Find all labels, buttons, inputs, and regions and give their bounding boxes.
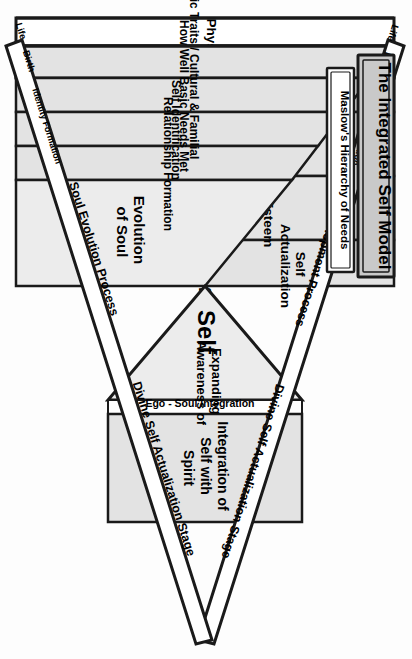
sub-title-text: Maslow's Hierarchy of Needs [339,91,351,250]
diagram-canvas: Creation of Life Physiological Safety Lo… [0,0,412,659]
label-expanding-awareness: Expanding Awareness of [194,341,224,426]
label-ego-soul-integration: Ego - Soul Integration [145,397,254,409]
band-label-relationship-formation: Relationship Formation [161,97,175,231]
integrated-self-model-figure: Creation of Life Physiological Safety Lo… [0,0,412,659]
label-evolution-of-soul: Evolution of Soul [114,196,148,269]
title-block: The Integrated Self Model Maslow's Hiera… [327,55,394,277]
main-title-text: The Integrated Self Model [375,63,394,270]
